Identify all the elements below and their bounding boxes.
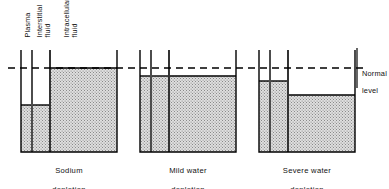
normal-level-label-line1: Normal [362, 70, 389, 79]
caption-sodium-depletion-line1: Sodium [29, 166, 109, 175]
fill-intracellular-p3 [289, 95, 355, 152]
fill-plasma-p1 [21, 105, 31, 152]
fluid-compartment-figure: Plasma Interstitial fluid Intracellular … [0, 0, 389, 189]
panel-sodium-depletion [21, 50, 117, 152]
panel-mild-water-depletion [140, 50, 236, 152]
normal-level-label-line2: level [362, 87, 389, 96]
fill-interstitial-p3 [271, 81, 287, 152]
caption-sodium-depletion-line2: depletion [29, 185, 109, 189]
fill-intracellular-p1 [51, 68, 117, 152]
caption-mild-water-depletion-line1: Mild water [148, 166, 228, 175]
caption-severe-water-depletion: Severe water depletion [267, 157, 347, 189]
fill-plasma-p2 [140, 76, 150, 152]
fill-interstitial-p2 [152, 76, 168, 152]
normal-level-label: Normal level [362, 61, 389, 104]
panel-severe-water-depletion [259, 50, 355, 152]
fill-intracellular-p2 [170, 76, 236, 152]
caption-mild-water-depletion-line2: depletion [148, 185, 228, 189]
caption-severe-water-depletion-line1: Severe water [267, 166, 347, 175]
caption-severe-water-depletion-line2: depletion [267, 185, 347, 189]
caption-mild-water-depletion: Mild water depletion [148, 157, 228, 189]
caption-sodium-depletion: Sodium depletion [29, 157, 109, 189]
fill-interstitial-p1 [33, 105, 49, 152]
fill-plasma-p3 [259, 81, 269, 152]
